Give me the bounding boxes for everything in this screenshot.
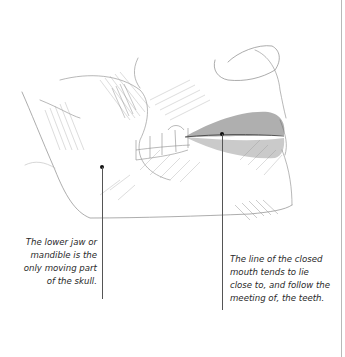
caption-line: close to, and follow the (230, 279, 340, 292)
page-border (341, 0, 342, 357)
caption-line: The line of the closed (230, 253, 340, 266)
caption-line: The lower jaw or (14, 236, 97, 249)
caption-closed-mouth: The line of the closed mouth tends to li… (230, 253, 340, 305)
leader-line-lower-jaw (102, 167, 103, 299)
caption-line: only moving part (14, 262, 97, 275)
caption-line: mouth tends to lie (230, 266, 340, 279)
caption-line: of the skull. (14, 275, 97, 288)
leader-line-closed-mouth (222, 134, 223, 310)
caption-line: meeting of, the teeth. (230, 292, 340, 305)
caption-lower-jaw: The lower jaw or mandible is the only mo… (14, 236, 97, 288)
caption-line: mandible is the (14, 249, 97, 262)
